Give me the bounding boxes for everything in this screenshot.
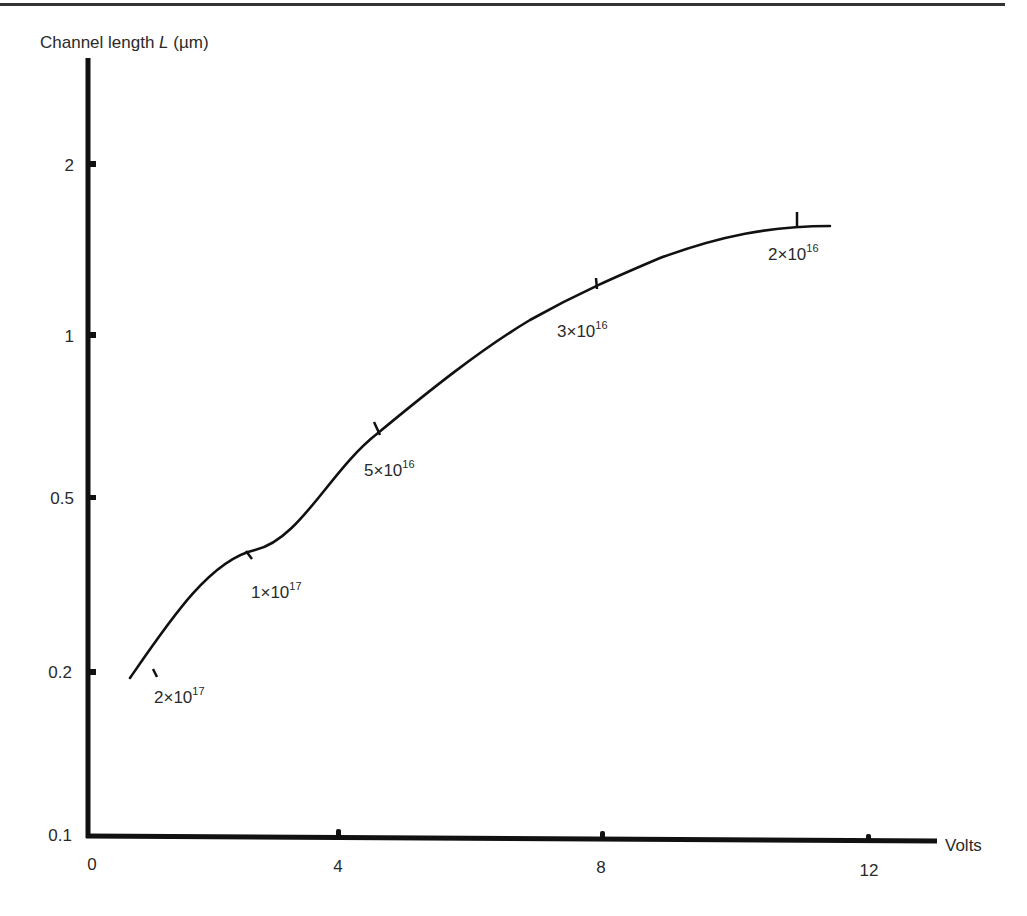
annotation-5e16: 5×1016: [364, 458, 415, 480]
annotation-1e17: 1×1017: [251, 580, 302, 602]
annotation-3e16: 3×1016: [557, 319, 608, 341]
svg-text:0: 0: [87, 855, 96, 874]
svg-text:4: 4: [333, 857, 342, 876]
svg-text:0.2: 0.2: [48, 663, 72, 682]
annotation-2e16: 2×1016: [768, 242, 819, 264]
svg-text:0.1: 0.1: [48, 826, 72, 845]
y-tick-labels: 2 1 0.5 0.2 0.1: [48, 156, 74, 845]
svg-text:0.5: 0.5: [50, 489, 74, 508]
x-tick-labels: 0 4 8 12: [87, 855, 878, 880]
svg-text:2: 2: [65, 156, 74, 175]
svg-text:8: 8: [596, 858, 605, 877]
annotation-2e17: 2×1017: [154, 685, 205, 707]
data-curve: [130, 226, 830, 678]
x-axis-label: Volts: [945, 836, 982, 855]
curve-ticks: [153, 212, 797, 677]
chart: 2 1 0.5 0.2 0.1 0 4 8 12 Channel length …: [0, 0, 1027, 916]
annotations: 2×1017 1×1017 5×1016 3×1016 2×1016: [154, 242, 819, 707]
svg-text:12: 12: [860, 861, 879, 880]
x-axis: [86, 836, 937, 841]
y-axis-label: Channel length L (µm): [40, 33, 209, 52]
svg-text:1: 1: [65, 327, 74, 346]
